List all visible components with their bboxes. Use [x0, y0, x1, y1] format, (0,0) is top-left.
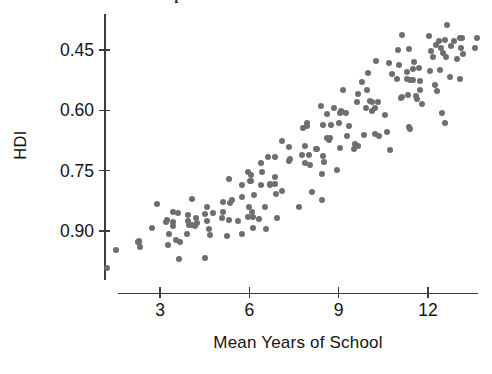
data-point	[235, 218, 241, 224]
data-point	[239, 194, 245, 200]
data-point	[442, 120, 448, 126]
data-point	[258, 160, 264, 166]
data-point	[248, 178, 254, 184]
data-point	[447, 74, 453, 80]
data-point	[351, 146, 357, 152]
data-point	[306, 152, 312, 158]
data-point	[239, 182, 245, 188]
data-point	[313, 146, 319, 152]
data-point	[355, 91, 361, 97]
data-point	[367, 98, 373, 104]
data-point	[430, 54, 436, 60]
data-point	[327, 135, 333, 141]
data-point	[250, 214, 256, 220]
caption-cutoff: the HDI. Here is a scatterplot	[0, 0, 492, 7]
y-axis-line	[104, 14, 106, 280]
data-point	[286, 158, 292, 164]
data-point	[304, 120, 310, 126]
data-point	[226, 176, 232, 182]
x-tick-mark	[249, 287, 251, 298]
data-point	[410, 77, 416, 83]
scatterplot-figure: the HDI. Here is a scatterplot HDI Mean …	[0, 0, 492, 374]
data-point	[443, 54, 449, 60]
data-point	[186, 222, 192, 228]
data-point	[309, 189, 315, 195]
data-point	[189, 196, 195, 202]
data-point	[394, 76, 400, 82]
data-point	[210, 210, 216, 216]
data-point	[320, 153, 326, 159]
data-point	[337, 145, 343, 151]
data-point	[163, 219, 169, 225]
data-point	[414, 96, 420, 102]
data-point	[396, 62, 402, 68]
data-point	[164, 217, 170, 223]
data-point	[457, 35, 463, 41]
y-tick-mark	[99, 170, 110, 172]
data-point	[248, 172, 254, 178]
data-point	[344, 133, 350, 139]
data-point	[460, 51, 466, 57]
data-point	[149, 225, 155, 231]
data-point	[407, 126, 413, 132]
data-point	[417, 87, 423, 93]
data-point	[245, 214, 251, 220]
data-point	[399, 32, 405, 38]
data-point	[372, 131, 378, 137]
data-point	[448, 43, 454, 49]
data-point	[406, 46, 412, 52]
data-point	[265, 154, 271, 160]
y-axis-title: HDI	[11, 130, 30, 159]
data-point	[193, 215, 199, 221]
data-point	[338, 108, 344, 114]
data-point	[251, 192, 257, 198]
data-point	[459, 35, 465, 41]
data-point	[267, 182, 273, 188]
data-point	[375, 99, 381, 105]
data-point	[318, 103, 324, 109]
data-point	[173, 237, 179, 243]
data-point	[319, 171, 325, 177]
data-point	[226, 217, 232, 223]
data-point	[437, 67, 443, 73]
data-point	[300, 125, 306, 131]
data-point	[376, 133, 382, 139]
data-point	[175, 210, 181, 216]
data-point	[279, 138, 285, 144]
data-point	[247, 178, 253, 184]
data-point	[398, 95, 404, 101]
data-point	[336, 120, 342, 126]
data-point	[219, 215, 225, 221]
data-point	[343, 110, 349, 116]
data-point	[454, 56, 460, 62]
data-point	[334, 167, 340, 173]
data-point	[286, 144, 292, 150]
data-point	[395, 47, 401, 53]
data-point	[220, 209, 226, 215]
data-point	[274, 215, 280, 221]
data-point	[319, 197, 325, 203]
data-point	[363, 105, 369, 111]
data-point	[337, 110, 343, 116]
y-tick-mark	[99, 110, 110, 112]
data-point	[279, 188, 285, 194]
data-point	[314, 146, 320, 152]
data-point	[304, 123, 310, 129]
data-point	[166, 231, 172, 237]
data-point	[444, 22, 450, 28]
x-tick-mark	[159, 287, 161, 298]
data-point	[365, 70, 371, 76]
data-point	[384, 129, 390, 135]
data-point	[411, 59, 417, 65]
data-point	[273, 191, 279, 197]
data-point	[399, 94, 405, 100]
data-point	[202, 211, 208, 217]
data-point	[432, 82, 438, 88]
x-tick-label: 9	[319, 300, 359, 321]
data-point	[135, 239, 141, 245]
data-point	[436, 38, 442, 44]
data-point	[170, 209, 176, 215]
y-tick-mark	[99, 49, 110, 51]
data-point	[184, 231, 190, 237]
data-point	[136, 238, 142, 244]
